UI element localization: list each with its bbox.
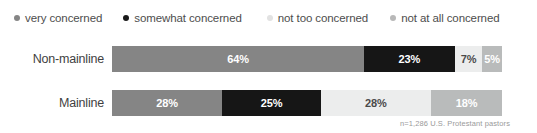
- bar-segment: 25%: [222, 90, 320, 116]
- chart-row-mainline: Mainline 28%25%28%18%: [0, 90, 537, 116]
- legend-dot-very-concerned-icon: [14, 15, 20, 21]
- bar-segment: 7%: [455, 46, 483, 72]
- bar-segment: 5%: [482, 46, 502, 72]
- legend-label-very-concerned: very concerned: [25, 12, 102, 24]
- category-label-non-mainline: Non-mainline: [0, 52, 112, 66]
- chart-footnote: n=1,286 U.S. Protestant pastors: [400, 119, 510, 128]
- stacked-bar-non-mainline: 64%23%7%5%: [112, 46, 502, 72]
- bar-segment: 28%: [321, 90, 431, 116]
- chart-legend: very concerned somewhat concerned not to…: [0, 8, 537, 28]
- bar-segment: 18%: [431, 90, 502, 116]
- legend-item-not-at-all-concerned[interactable]: not at all concerned: [390, 12, 499, 24]
- bar-segment: 64%: [112, 46, 364, 72]
- legend-label-somewhat-concerned: somewhat concerned: [134, 12, 242, 24]
- legend-dot-somewhat-concerned-icon: [123, 15, 129, 21]
- legend-label-not-too-concerned: not too concerned: [278, 12, 368, 24]
- legend-item-very-concerned[interactable]: very concerned: [14, 12, 102, 24]
- legend-item-not-too-concerned[interactable]: not too concerned: [267, 12, 368, 24]
- bar-segment: 23%: [364, 46, 455, 72]
- legend-item-somewhat-concerned[interactable]: somewhat concerned: [123, 12, 242, 24]
- category-label-mainline: Mainline: [0, 96, 112, 110]
- chart-row-non-mainline: Non-mainline 64%23%7%5%: [0, 46, 537, 72]
- legend-label-not-at-all-concerned: not at all concerned: [401, 12, 499, 24]
- bar-segment: 28%: [112, 90, 222, 116]
- stacked-bar-chart: Non-mainline 64%23%7%5% Mainline 28%25%2…: [0, 40, 537, 120]
- legend-dot-not-too-concerned-icon: [267, 15, 273, 21]
- legend-dot-not-at-all-concerned-icon: [390, 15, 396, 21]
- stacked-bar-mainline: 28%25%28%18%: [112, 90, 502, 116]
